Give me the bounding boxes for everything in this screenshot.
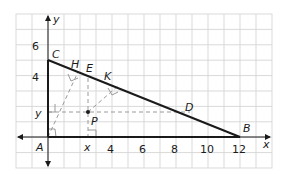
label-a: A — [35, 141, 44, 154]
label-c: C — [52, 48, 60, 61]
dashed-lines — [48, 72, 190, 137]
x-tick-4: 4 — [107, 143, 114, 156]
segment-label-x: x — [83, 141, 91, 154]
segment-label-y: y — [34, 107, 42, 120]
x-tick-12: 12 — [232, 143, 246, 156]
point-p — [86, 110, 90, 114]
label-p: P — [91, 115, 98, 128]
coordinate-diagram: y x 6 4 4 6 8 10 12 C H E K D B A P y x — [0, 0, 283, 174]
x-tick-10: 10 — [200, 143, 214, 156]
x-tick-8: 8 — [171, 143, 178, 156]
label-b: B — [243, 122, 251, 135]
x-tick-6: 6 — [139, 143, 146, 156]
label-d: D — [185, 101, 193, 114]
label-k: K — [104, 70, 112, 83]
label-h: H — [71, 58, 79, 71]
y-tick-4: 4 — [32, 71, 39, 84]
y-tick-6: 6 — [32, 40, 39, 53]
y-axis-label: y — [52, 13, 60, 26]
x-axis-label: x — [262, 138, 270, 151]
label-e: E — [86, 62, 93, 75]
